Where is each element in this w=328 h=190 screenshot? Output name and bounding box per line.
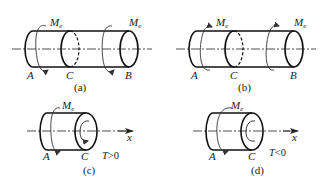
moment-label-A: Me	[230, 99, 243, 113]
x-axis-label: x	[291, 131, 297, 143]
figure-d: Me x A C T<0 (d)	[193, 99, 298, 177]
caption-a: (a)	[74, 81, 87, 94]
point-C-label: C	[81, 150, 89, 162]
end-A	[206, 113, 213, 150]
torque-arrow-A	[217, 108, 232, 152]
point-C-label: C	[248, 150, 256, 162]
caption-c: (c)	[83, 164, 96, 177]
torque-arrow-A	[200, 26, 212, 70]
point-B-label: B	[290, 69, 297, 81]
torque-sign-condition: T<0	[269, 147, 286, 158]
point-A-label: A	[26, 69, 34, 81]
figure-c: Me x A C T>0 (c)	[27, 99, 133, 177]
caption-d: (d)	[251, 164, 264, 177]
torque-arrow-A	[36, 25, 48, 71]
cut-section-C	[75, 113, 97, 150]
caption-b: (b)	[238, 81, 251, 94]
figure-b: Me Me A C B (b)	[176, 16, 316, 94]
moment-label-B: Me	[128, 16, 141, 30]
point-A-label: A	[208, 150, 216, 162]
moment-label-B: Me	[293, 16, 306, 30]
moment-label-A: Me	[215, 16, 228, 30]
figure-a: Me Me A C B (a)	[12, 16, 152, 94]
torsion-diagram: Me Me A C B (a) Me Me A C B (b)	[0, 0, 328, 190]
x-axis-label: x	[126, 131, 132, 143]
point-C-label: C	[230, 69, 238, 81]
point-C-label: C	[66, 69, 74, 81]
point-A-label: A	[42, 150, 50, 162]
point-B-label: B	[125, 69, 132, 81]
point-A-label: A	[190, 69, 198, 81]
moment-label-A: Me	[49, 16, 62, 30]
end-A	[40, 113, 47, 150]
cut-section-C	[241, 113, 263, 150]
torque-arrow-A	[51, 108, 60, 152]
torque-sign-condition: T>0	[102, 150, 119, 161]
torque-arrow-B	[266, 26, 279, 71]
moment-label-A: Me	[61, 99, 74, 113]
